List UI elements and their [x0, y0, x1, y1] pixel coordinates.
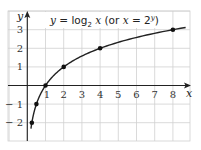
- x-tick-label: 7: [152, 89, 158, 100]
- y-tick-label: 1: [17, 61, 23, 72]
- x-tick-label: 6: [133, 89, 139, 100]
- log-graph: y = log2 x (or x = 2y) x y 12345678 321−…: [0, 0, 201, 150]
- data-point: [34, 102, 39, 107]
- data-points: [30, 27, 176, 125]
- x-tick-label: 3: [79, 89, 85, 100]
- y-axis-label: y: [16, 10, 24, 23]
- x-tick-label: 1: [44, 89, 50, 100]
- data-point: [171, 27, 176, 32]
- data-point: [98, 46, 103, 51]
- x-tick-label: 4: [97, 89, 103, 100]
- x-tick-label: 2: [61, 89, 67, 100]
- x-axis-label: x: [186, 87, 193, 100]
- plot-border: [8, 11, 190, 141]
- y-tick-label: − 1: [5, 99, 23, 110]
- x-tick-label: 8: [170, 89, 176, 100]
- y-tick-label: 2: [17, 43, 23, 54]
- y-tick-label: − 2: [5, 117, 23, 128]
- log-curve: [31, 27, 186, 128]
- y-tick-label: 3: [17, 24, 23, 35]
- x-tick-labels: 12345678: [44, 89, 176, 100]
- data-point: [30, 120, 35, 125]
- grid: [8, 11, 190, 141]
- x-tick-label: 5: [115, 89, 121, 100]
- data-point: [43, 83, 48, 88]
- data-point: [61, 65, 66, 70]
